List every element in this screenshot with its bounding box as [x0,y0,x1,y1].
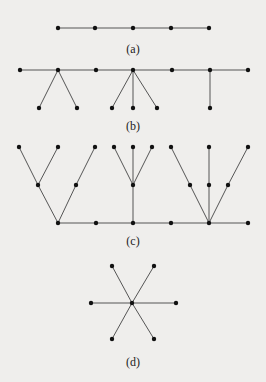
graph-vertex [246,221,250,225]
graph-vertex [170,68,174,72]
graph-vertex [152,264,156,268]
graph-vertex [36,183,40,187]
panel-b-label: (b) [126,119,140,133]
graph-vertex [94,221,98,225]
graph-edge [209,185,228,223]
panel-d: (d) [89,264,178,369]
graph-vertex [208,68,212,72]
graph-vertex [169,145,173,149]
graph-vertex [131,68,135,72]
graph-vertex [74,183,78,187]
graph-vertex [174,301,178,305]
graph-vertex [94,68,98,72]
panel-b-nodes [18,68,250,110]
graph-vertex [131,221,135,225]
graph-vertex [131,106,135,110]
graph-vertex [246,68,250,72]
graph-vertex [208,106,212,110]
graph-edge [114,147,133,185]
graph-vertex [18,68,22,72]
graph-vertex [188,183,192,187]
graph-edge [112,266,132,303]
graph-vertex [112,145,116,149]
graph-vertex [130,301,134,305]
graph-vertex [207,221,211,225]
graph-vertex [207,183,211,187]
graph-vertex [155,106,159,110]
graph-vertex [56,221,60,225]
graph-vertex [150,145,154,149]
graph-figure: (a) (b) (c) (d) [0,0,266,382]
graph-edge [76,147,95,185]
graph-vertex [17,145,21,149]
panel-a: (a) [56,26,211,56]
panel-c-label: (c) [126,234,139,248]
graph-edge [38,147,58,185]
graph-edge [58,70,77,108]
graph-vertex [207,26,211,30]
graph-vertex [169,221,173,225]
diagram-canvas: (a) (b) (c) (d) [0,0,266,382]
graph-edge [112,303,132,339]
graph-vertex [131,145,135,149]
graph-edge [133,70,157,108]
graph-edge [19,147,38,185]
graph-vertex [131,183,135,187]
graph-vertex [131,26,135,30]
panel-b: (b) [18,68,250,133]
graph-edge [171,147,190,185]
graph-edge [132,303,154,339]
graph-vertex [246,145,250,149]
graph-edge [39,70,58,108]
graph-vertex [56,26,60,30]
panel-d-label: (d) [126,355,140,369]
graph-edge [133,147,152,185]
panel-b-edges [20,70,248,108]
graph-vertex [89,301,93,305]
graph-vertex [110,264,114,268]
graph-edge [112,70,133,108]
graph-vertex [56,68,60,72]
graph-edge [190,185,209,223]
graph-edge [58,185,76,223]
graph-vertex [152,337,156,341]
graph-vertex [37,106,41,110]
graph-vertex [93,145,97,149]
graph-vertex [110,106,114,110]
graph-vertex [110,337,114,341]
graph-edge [228,147,248,185]
graph-vertex [93,26,97,30]
graph-edge [132,266,154,303]
graph-vertex [207,145,211,149]
panel-c: (c) [17,145,250,248]
graph-vertex [75,106,79,110]
graph-vertex [56,145,60,149]
graph-vertex [226,183,230,187]
graph-edge [38,185,58,223]
panel-a-label: (a) [126,42,139,56]
graph-vertex [169,26,173,30]
